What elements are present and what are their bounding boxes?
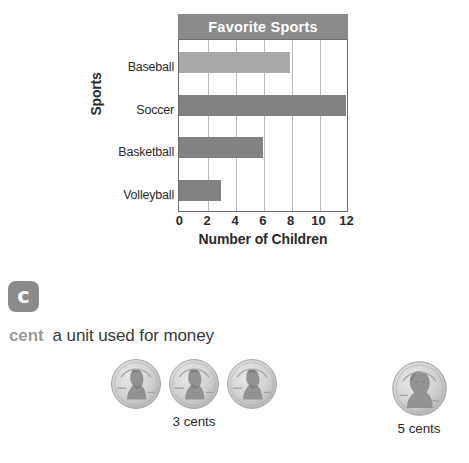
nickel-coin-group: 5 cents (382, 360, 456, 436)
vocab-entry: cent a unit used for money (9, 326, 214, 346)
vocab-term: cent (9, 326, 44, 346)
chart-bar (179, 52, 290, 73)
nickel-caption: 5 cents (382, 421, 456, 436)
chart-x-tick-label: 10 (311, 213, 325, 228)
chart-gridline (320, 40, 321, 211)
chart-x-tick-label: 2 (204, 213, 211, 228)
chart-y-tick-label: Basketball (118, 145, 174, 159)
nickel-coin-icon (391, 360, 448, 417)
chart-title: Favorite Sports (179, 15, 347, 38)
nickel-row (382, 360, 456, 417)
chart-x-tick-label: 4 (231, 213, 238, 228)
chart-bar (179, 137, 263, 158)
chart-x-tick-label: 0 (176, 213, 183, 228)
chart-x-axis-title: Number of Children (178, 231, 348, 247)
letter-c-badge-icon: c (8, 281, 39, 312)
chart-y-tick-label: Volleyball (123, 188, 174, 202)
chart-x-tick-label: 6 (259, 213, 266, 228)
penny-coin-icon (168, 358, 220, 410)
chart-x-tick-labels: 024681012 (178, 213, 348, 231)
chart-y-tick-label: Baseball (128, 60, 174, 74)
penny-caption: 3 cents (108, 414, 280, 429)
chart-y-tick-labels: BaseballSoccerBasketballVolleyball (84, 47, 176, 213)
badge-letter: c (17, 286, 29, 307)
penny-row (108, 358, 280, 410)
vocab-definition: a unit used for money (53, 326, 214, 346)
penny-coin-icon (110, 358, 162, 410)
chart-plot-area (178, 39, 348, 212)
chart-y-tick-label: Soccer (136, 103, 174, 117)
penny-coin-group: 3 cents (108, 358, 280, 429)
penny-coin-icon (226, 358, 278, 410)
chart-bar (179, 95, 346, 116)
chart-gridline (292, 40, 293, 211)
chart-x-tick-label: 8 (287, 213, 294, 228)
favorite-sports-chart: Sports BaseballSoccerBasketballVolleybal… (0, 0, 469, 258)
chart-bar (179, 180, 221, 201)
chart-x-tick-label: 12 (339, 213, 353, 228)
chart-title-bar: Favorite Sports (178, 14, 348, 39)
